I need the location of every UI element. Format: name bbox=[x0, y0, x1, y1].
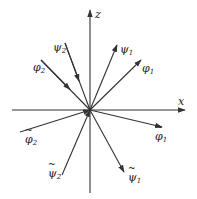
vector-diagram bbox=[0, 0, 197, 199]
label-psi2-tilde: ψ2 bbox=[48, 168, 61, 181]
label-psi1-tilde: ψ1 bbox=[128, 172, 141, 185]
vector-psi2-tilde bbox=[62, 110, 90, 175]
vector-phi1 bbox=[90, 60, 141, 110]
label-psi1: ψ1 bbox=[120, 44, 133, 57]
vector-phi1-tilde bbox=[90, 110, 162, 127]
vector-psi1-tilde bbox=[90, 110, 124, 172]
z-axis-label: z bbox=[95, 9, 101, 20]
label-phi1-tilde: φ1 bbox=[155, 131, 167, 144]
x-axis-label: x bbox=[178, 96, 184, 107]
label-psi2: ψ2 bbox=[53, 42, 66, 55]
label-phi2-tilde: φ2 bbox=[25, 134, 37, 147]
label-phi2: φ2 bbox=[33, 62, 45, 75]
label-phi1: φ1 bbox=[142, 63, 154, 76]
vector-psi1 bbox=[90, 45, 117, 110]
